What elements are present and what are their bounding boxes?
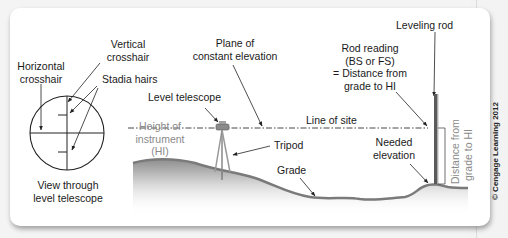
label-line: = Distance from [332,67,408,80]
label-reticle-caption: View through level telescope [28,179,108,204]
label-line: View through [28,179,108,192]
label-line: crosshair [16,73,66,86]
label-level-telescope: Level telescope [148,91,221,104]
label-stadia-hairs: Stadia hairs [102,73,157,86]
label-plane-of-constant-elevation: Plane of constant elevation [180,37,290,62]
label-rod-reading: Rod reading (BS or FS) = Distance from g… [332,42,408,92]
label-line: constant elevation [180,50,290,63]
copyright-credit: © Cengage Learning 2012 [491,102,500,200]
label-line: Vertical [98,38,158,51]
label-horizontal-crosshair: Horizontal crosshair [16,60,66,85]
label-line-of-site: Line of site [306,114,357,127]
label-height-of-instrument: Height of instrument (HI) [130,120,190,158]
label-line: Height of [130,120,190,133]
label-line: Needed [366,136,422,149]
label-distance-from-grade: Distance from grade to HI [449,126,474,184]
label-vertical-crosshair: Vertical crosshair [98,38,158,63]
leveling-rod [434,94,445,184]
label-leveling-rod: Leveling rod [396,19,453,32]
label-line: (HI) [130,145,190,158]
label-line: grade to HI [332,80,408,93]
label-line: crosshair [98,51,158,64]
label-line: Plane of [180,37,290,50]
label-tripod: Tripod [274,139,303,152]
label-line: Horizontal [16,60,66,73]
label-line: Rod reading [332,42,408,55]
label-line: elevation [366,149,422,162]
label-line: (BS or FS) [332,55,408,68]
label-line: level telescope [28,192,108,205]
label-needed-elevation: Needed elevation [366,136,422,161]
label-line: instrument [130,133,190,146]
label-grade: Grade [277,164,306,177]
label-line: Distance from [449,126,462,184]
label-line: grade to HI [462,126,475,184]
